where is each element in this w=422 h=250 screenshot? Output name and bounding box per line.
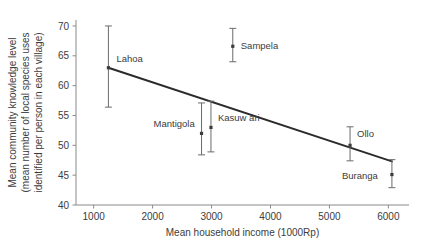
data-point-marker: [200, 132, 203, 135]
data-point-label: Kasuw ari: [218, 112, 260, 123]
chart-figure: Mean community knowledge level(mean numb…: [0, 0, 422, 250]
data-point-marker: [209, 126, 212, 129]
y-tick-label: 60: [58, 80, 70, 91]
x-axis-title: Mean household income (1000Rp): [166, 227, 319, 238]
x-axis-ticks: 100020003000400050006000: [83, 205, 400, 222]
scatter-plot-svg: Mean community knowledge level(mean numb…: [0, 0, 422, 250]
data-point-group: Sampela: [229, 28, 279, 61]
data-point-label: Ollo: [357, 128, 374, 139]
y-tick-label: 65: [58, 50, 70, 61]
y-axis-title-line: Mean community knowledge level: [7, 37, 18, 187]
y-tick-label: 45: [58, 170, 70, 181]
y-tick-label: 40: [58, 200, 70, 211]
y-axis-title: Mean community knowledge level(mean numb…: [7, 32, 44, 192]
x-tick-label: 1000: [83, 211, 106, 222]
y-axis-ticks: 40455055606570: [58, 21, 76, 211]
data-point-group: Lahoa: [105, 26, 144, 107]
data-points: LahoaMantigolaKasuw ariSampelaOlloBurang…: [105, 26, 395, 188]
data-point-marker: [348, 144, 351, 147]
data-point-label: Sampela: [241, 40, 279, 51]
data-point-marker: [107, 66, 110, 69]
x-tick-label: 3000: [200, 211, 223, 222]
data-point-label: Mantigola: [154, 118, 196, 129]
data-point-group: Buranga: [342, 160, 396, 188]
data-point-group: Mantigola: [154, 103, 206, 155]
y-axis-title-line: identified per person in each village): [33, 32, 44, 192]
y-axis-title-line: (mean number of local species uses: [20, 32, 31, 192]
x-tick-label: 5000: [318, 211, 341, 222]
data-point-marker: [390, 173, 393, 176]
x-tick-label: 4000: [259, 211, 282, 222]
y-tick-label: 70: [58, 21, 70, 32]
data-point-group: Ollo: [347, 127, 374, 161]
x-tick-label: 2000: [141, 211, 164, 222]
data-point-label: Buranga: [342, 170, 379, 181]
y-tick-label: 50: [58, 140, 70, 151]
x-axis-title-text: Mean household income (1000Rp): [166, 227, 319, 238]
data-point-marker: [231, 45, 234, 48]
data-point-label: Lahoa: [116, 53, 143, 64]
x-tick-label: 6000: [377, 211, 400, 222]
y-tick-label: 55: [58, 110, 70, 121]
